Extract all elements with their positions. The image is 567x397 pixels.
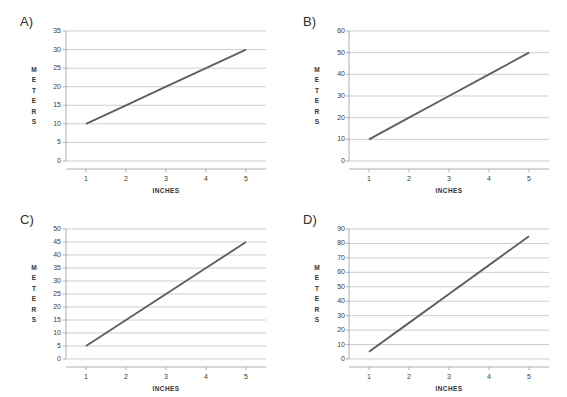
y-tick-label: 20 <box>53 83 61 91</box>
y-axis-title: METERS <box>28 263 40 326</box>
chart-panel-d: D) 010203040506070809012345METERSINCHES <box>283 198 567 397</box>
x-tick-label: 3 <box>156 175 176 183</box>
data-series-line <box>369 236 529 352</box>
y-axis-title: METERS <box>311 263 323 326</box>
y-tick-label: 50 <box>337 49 345 57</box>
y-tick-label: 70 <box>337 254 345 262</box>
y-axis-title: METERS <box>311 65 323 128</box>
chart-panel-a: A) 0510152025303512345METERSINCHES <box>0 0 283 198</box>
y-tick-label: 40 <box>53 251 61 259</box>
y-axis-title-letter: E <box>315 75 320 86</box>
y-tick-label: 50 <box>337 283 345 291</box>
x-tick-label: 4 <box>196 175 216 183</box>
y-tick-label: 30 <box>53 46 61 54</box>
y-axis-title: METERS <box>28 65 40 128</box>
y-axis-title-letter: E <box>315 294 320 305</box>
y-axis-title-letter: E <box>315 96 320 107</box>
x-tick-label: 5 <box>519 373 539 381</box>
y-tick-label: 35 <box>53 264 61 272</box>
y-tick-label: 5 <box>57 342 61 350</box>
x-tick-label: 4 <box>479 175 499 183</box>
y-axis-title-letter: M <box>314 65 320 76</box>
chart-panel-b: B) 010203040506012345METERSINCHES <box>283 0 567 198</box>
y-axis-title-letter: M <box>314 263 320 274</box>
y-tick-label: 10 <box>337 341 345 349</box>
y-axis-title-letter: E <box>32 294 37 305</box>
x-tick-label: 1 <box>359 373 379 381</box>
y-tick-label: 0 <box>57 355 61 363</box>
x-tick-label: 4 <box>479 373 499 381</box>
y-axis-title-letter: S <box>32 315 37 326</box>
y-axis-title-letter: S <box>32 117 37 128</box>
y-tick-label: 10 <box>53 329 61 337</box>
plot-area <box>0 198 283 396</box>
y-tick-label: 80 <box>337 239 345 247</box>
x-tick-label: 2 <box>116 373 136 381</box>
y-axis-title-letter: E <box>315 273 320 284</box>
x-tick-label: 3 <box>156 373 176 381</box>
y-axis-title-letter: R <box>315 305 320 316</box>
x-tick-label: 2 <box>399 373 419 381</box>
chart-c: 0510152025303540455012345METERSINCHES <box>0 198 283 397</box>
y-tick-label: 5 <box>57 138 61 146</box>
y-tick-label: 30 <box>337 312 345 320</box>
y-tick-label: 10 <box>53 120 61 128</box>
y-axis-title-letter: E <box>32 96 37 107</box>
x-tick-label: 4 <box>196 373 216 381</box>
x-tick-label: 1 <box>76 175 96 183</box>
chart-a: 0510152025303512345METERSINCHES <box>0 0 283 198</box>
x-tick-label: 3 <box>439 373 459 381</box>
x-axis-title: INCHES <box>349 385 549 392</box>
plot-area <box>283 198 566 396</box>
plot-area <box>283 0 566 198</box>
y-axis-title-letter: S <box>315 117 320 128</box>
y-tick-label: 0 <box>57 157 61 165</box>
x-axis-title: INCHES <box>66 385 266 392</box>
y-tick-label: 50 <box>53 225 61 233</box>
y-tick-label: 0 <box>341 157 345 165</box>
y-tick-label: 20 <box>337 326 345 334</box>
chart-panel-c: C) 0510152025303540455012345METERSINCHES <box>0 198 283 397</box>
x-tick-label: 1 <box>359 175 379 183</box>
x-tick-label: 2 <box>116 175 136 183</box>
y-axis-title-letter: M <box>31 263 37 274</box>
y-tick-label: 0 <box>341 355 345 363</box>
y-tick-label: 40 <box>337 297 345 305</box>
y-tick-label: 35 <box>53 27 61 35</box>
y-tick-label: 60 <box>337 268 345 276</box>
x-tick-label: 3 <box>439 175 459 183</box>
x-axis-title: INCHES <box>349 187 549 194</box>
y-axis-title-letter: R <box>315 107 320 118</box>
y-axis-title-letter: T <box>32 86 36 97</box>
y-tick-label: 90 <box>337 225 345 233</box>
y-tick-label: 15 <box>53 101 61 109</box>
y-tick-label: 30 <box>337 92 345 100</box>
y-axis-title-letter: E <box>32 75 37 86</box>
y-tick-label: 25 <box>53 290 61 298</box>
y-tick-label: 20 <box>53 303 61 311</box>
y-tick-label: 60 <box>337 27 345 35</box>
y-axis-title-letter: M <box>31 65 37 76</box>
y-tick-label: 30 <box>53 277 61 285</box>
plot-area <box>0 0 283 198</box>
y-axis-title-letter: T <box>315 86 319 97</box>
y-axis-title-letter: E <box>32 273 37 284</box>
y-axis-title-letter: S <box>315 315 320 326</box>
x-tick-label: 5 <box>236 175 256 183</box>
x-tick-label: 1 <box>76 373 96 381</box>
y-tick-label: 10 <box>337 135 345 143</box>
x-tick-label: 5 <box>236 373 256 381</box>
x-axis-title: INCHES <box>66 187 266 194</box>
y-tick-label: 25 <box>53 64 61 72</box>
y-axis-title-letter: R <box>32 107 37 118</box>
y-tick-label: 40 <box>337 70 345 78</box>
y-tick-label: 45 <box>53 238 61 246</box>
y-axis-title-letter: T <box>315 284 319 295</box>
figure-panel-grid: A) 0510152025303512345METERSINCHES B) 01… <box>0 0 567 397</box>
y-axis-title-letter: R <box>32 305 37 316</box>
y-tick-label: 20 <box>337 114 345 122</box>
chart-d: 010203040506070809012345METERSINCHES <box>283 198 567 397</box>
x-tick-label: 5 <box>519 175 539 183</box>
chart-b: 010203040506012345METERSINCHES <box>283 0 567 198</box>
y-axis-title-letter: T <box>32 284 36 295</box>
